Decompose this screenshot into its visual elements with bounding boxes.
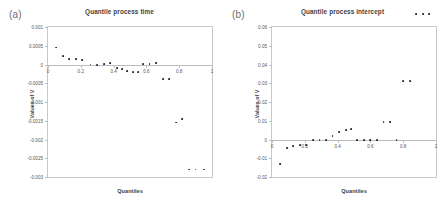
data-point: [149, 63, 151, 65]
data-point: [90, 64, 92, 66]
data-point: [142, 63, 144, 65]
data-point: [306, 144, 308, 146]
data-point: [137, 71, 139, 73]
data-point: [356, 139, 358, 141]
y-axis-tick-label: -0.002: [30, 137, 43, 142]
y-axis-tick: [45, 27, 48, 28]
y-axis-tick-label: 0.04: [258, 62, 267, 67]
data-point: [389, 121, 391, 123]
y-axis-tick: [45, 177, 48, 178]
data-point: [195, 169, 197, 171]
y-axis-tick: [269, 65, 272, 66]
y-axis-tick-label: -0.01: [257, 156, 267, 161]
panel-a: (a) Quantile process time Values of V Qu…: [0, 0, 223, 207]
y-axis-tick-label: -0.02: [257, 175, 267, 180]
plot-area-a: 0.0010.00050-0.0005-0.001-0.0015-0.002-0…: [47, 26, 213, 178]
data-point: [188, 169, 190, 171]
y-axis-tick-label: 0.02: [258, 100, 267, 105]
x-axis-tick-label: 0: [271, 144, 274, 149]
data-point: [75, 58, 77, 60]
data-point: [116, 67, 118, 69]
y-axis-tick-label: -0.001: [30, 100, 43, 105]
y-axis-tick: [269, 121, 272, 122]
x-axis-tick-label: 1: [435, 144, 438, 149]
data-point: [409, 80, 411, 82]
y-axis-tick-label: -0.0015: [27, 118, 43, 123]
x-axis-tick: [48, 65, 49, 68]
x-axis-tick-label: 0.2: [78, 69, 84, 74]
y-axis-tick-label: 0.05: [258, 43, 267, 48]
y-axis-tick: [45, 158, 48, 159]
y-axis-tick-label: -0.003: [30, 175, 43, 180]
zero-reference-line: [272, 140, 436, 141]
x-axis-tick-label: 0.4: [110, 69, 116, 74]
data-point: [292, 145, 294, 147]
y-axis-tick: [45, 102, 48, 103]
data-point: [175, 122, 177, 124]
x-axis-tick-label: 0.8: [400, 144, 406, 149]
x-axis-label-b: Quantiles: [271, 188, 437, 194]
y-axis-tick-label: 0: [40, 62, 43, 67]
y-axis-tick-label: 0.001: [32, 25, 44, 30]
x-axis-tick: [403, 140, 404, 143]
x-axis-tick: [179, 65, 180, 68]
data-point: [82, 59, 84, 61]
x-axis-tick-label: 0: [47, 69, 50, 74]
data-point: [182, 118, 184, 120]
x-axis-tick-label: 0.4: [334, 144, 340, 149]
y-axis-tick-label: 0.06: [258, 25, 267, 30]
x-axis-label-a: Quantiles: [47, 188, 213, 194]
y-axis-tick: [269, 177, 272, 178]
data-point: [126, 70, 128, 72]
y-axis-tick: [269, 46, 272, 47]
data-point: [96, 64, 98, 66]
y-axis-tick-label: 0.0005: [29, 43, 43, 48]
chart-title-b: Quantile process intercept: [223, 8, 446, 15]
data-point: [121, 68, 123, 70]
data-point: [103, 63, 105, 65]
chart-title-a: Quantile process time: [0, 8, 223, 15]
x-axis-tick: [114, 65, 115, 68]
data-point: [132, 71, 134, 73]
data-point: [62, 55, 64, 57]
data-point: [332, 135, 334, 137]
y-axis-tick: [45, 121, 48, 122]
x-axis-tick-label: 1: [211, 69, 214, 74]
y-axis-tick: [269, 83, 272, 84]
x-axis-tick-label: 0.8: [176, 69, 182, 74]
data-point: [168, 78, 170, 80]
y-axis-tick: [45, 83, 48, 84]
data-point: [369, 139, 371, 141]
data-point: [376, 139, 378, 141]
data-point: [415, 13, 417, 15]
data-point: [338, 131, 340, 133]
x-axis-tick: [338, 140, 339, 143]
data-point: [68, 58, 70, 60]
y-axis-tick-label: 0.03: [258, 81, 267, 86]
y-axis-tick-label: 0.01: [258, 118, 267, 123]
data-point: [286, 147, 288, 149]
data-point: [203, 169, 205, 171]
data-point: [363, 139, 365, 141]
y-axis-tick-label: -0.0005: [27, 81, 43, 86]
data-point: [319, 139, 321, 141]
x-axis-tick: [436, 140, 437, 143]
y-axis-tick: [269, 102, 272, 103]
x-axis-tick-label: 0.6: [367, 144, 373, 149]
data-point: [429, 13, 431, 15]
y-axis-tick-label: -0.0025: [27, 156, 43, 161]
data-point: [109, 62, 111, 64]
x-axis-tick: [305, 140, 306, 143]
data-point: [162, 78, 164, 80]
y-axis-tick-label: 0: [264, 137, 267, 142]
y-axis-tick: [45, 46, 48, 47]
data-point: [325, 139, 327, 141]
data-point: [402, 80, 404, 82]
panel-b: (b) Quantile process intercept Values of…: [223, 0, 446, 207]
data-point: [422, 13, 424, 15]
data-point: [383, 121, 385, 123]
data-point: [312, 139, 314, 141]
y-axis-tick: [269, 158, 272, 159]
y-axis-tick: [269, 27, 272, 28]
data-point: [55, 47, 57, 49]
